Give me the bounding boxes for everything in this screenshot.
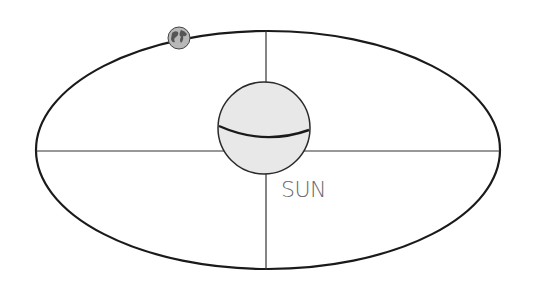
orbit-diagram [0, 0, 533, 289]
sun-label: SUN [281, 177, 326, 202]
earth-icon [168, 27, 190, 49]
sun [218, 82, 310, 174]
